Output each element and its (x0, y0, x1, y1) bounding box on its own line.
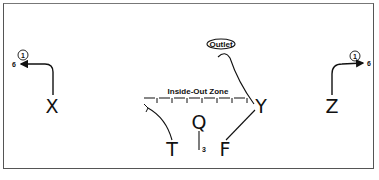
player-q: Q (192, 111, 207, 133)
x-read-number: 1 (21, 52, 25, 59)
z-read-number: 1 (353, 53, 357, 60)
player-t: T (165, 138, 178, 160)
t-route-end (144, 104, 148, 112)
outlet-label: Outlet (209, 40, 232, 49)
player-f: F (220, 138, 231, 160)
q-drop-label: 3 (202, 146, 206, 153)
player-z: Z (325, 95, 338, 117)
zone-line: Inside-Out Zone (144, 87, 247, 103)
player-y: Y (254, 95, 267, 117)
z-depth-label: 6 (367, 60, 371, 67)
x-route: 1 6 (12, 50, 53, 95)
zone-label: Inside-Out Zone (168, 87, 229, 96)
t-route (148, 108, 172, 140)
play-diagram: 1 6 1 6 Outlet Inside-Out Zone 3 X Q Y Z… (0, 0, 379, 180)
f-route (226, 110, 255, 140)
x-depth-label: 6 (12, 61, 16, 68)
z-route: 1 6 (332, 51, 371, 95)
player-x: X (45, 95, 58, 117)
